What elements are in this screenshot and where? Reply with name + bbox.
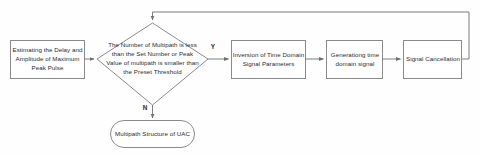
node-inversion-shape[interactable] [232, 41, 306, 79]
node-decision-shape[interactable] [97, 23, 208, 105]
flowchart-graphics [0, 0, 480, 155]
node-cancellation-shape[interactable] [404, 41, 462, 79]
node-estimate-shape[interactable] [11, 41, 85, 79]
node-terminator-shape[interactable] [111, 121, 195, 148]
node-generating-shape[interactable] [327, 41, 383, 79]
flowchart-canvas: Estimating the Delay and Amplitude of Ma… [0, 0, 480, 155]
